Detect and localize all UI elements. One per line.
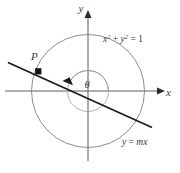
eq-one: 1 [138, 34, 143, 44]
figure-canvas: x y P θ x2 + y2 = 1 y = mx [0, 0, 180, 173]
line-eq-equals: = [126, 137, 136, 147]
point-P-label: P [30, 50, 38, 62]
eq-plus: + [110, 34, 120, 44]
angle-theta-label: θ [85, 79, 90, 90]
point-P-marker [35, 68, 41, 74]
point-P-group [35, 68, 41, 74]
line-eq-x-var: x [142, 137, 148, 147]
circle-equation-label: x2 + y2 = 1 [102, 33, 143, 45]
line-equation-label: y = mx [121, 137, 148, 147]
y-axis-label: y [78, 2, 84, 14]
x-axis-arrowhead-icon [157, 88, 165, 95]
y-axis-arrowhead-icon [85, 10, 92, 18]
x-axis-label: x [165, 86, 171, 98]
eq-equals: = [128, 34, 138, 44]
math-figure-unit-circle: x y P θ x2 + y2 = 1 y = mx [0, 0, 180, 173]
